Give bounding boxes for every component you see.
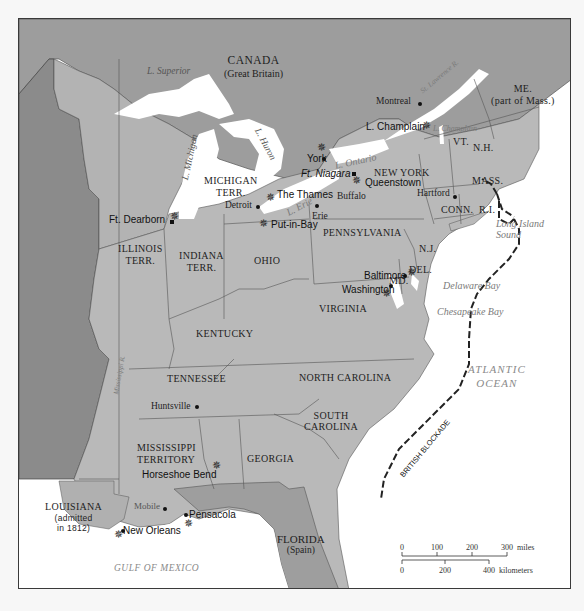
label-michigan-terr: MICHIGAN TERR. (204, 176, 258, 198)
label-delaware-bay: Delaware Bay (443, 281, 500, 291)
label-lake-superior: L. Superior (147, 67, 190, 77)
label-chesapeake-bay: Chesapeake Bay (437, 307, 503, 317)
battle-horseshoe-bend: Horseshoe Bend (142, 470, 217, 480)
map-frame: CANADA (Great Britain) FLORIDA (Spain) M… (18, 18, 571, 589)
label-georgia: GEORGIA (247, 454, 294, 464)
battle-baltimore: Baltimore (364, 271, 406, 281)
label-long-island-sound: Long Island Sound (496, 219, 544, 240)
scale-km-200: 200 (439, 566, 451, 575)
erie-marker (315, 204, 319, 208)
label-detroit: Detroit (225, 201, 252, 211)
label-canada: CANADA (Great Britain) (224, 55, 283, 79)
montreal-marker (418, 102, 422, 106)
battle-star-icon: ✵ (382, 288, 391, 299)
label-vermont: VT. (453, 137, 469, 147)
ft-dearborn-marker (170, 220, 174, 224)
battle-star-icon: ✵ (422, 120, 431, 131)
label-indiana-terr: INDIANA TERR. (179, 251, 224, 273)
scale-miles-100: 100 (431, 543, 443, 552)
mobile-marker (163, 507, 167, 511)
hartford-marker (453, 195, 457, 199)
scale-km-400: 400 (483, 566, 495, 575)
label-gulf-of-mexico: GULF OF MEXICO (114, 564, 199, 574)
battle-ft-dearborn: Ft. Dearborn (109, 215, 165, 225)
battle-star-icon: ✵ (114, 529, 123, 540)
label-kentucky: KENTUCKY (196, 329, 253, 339)
battle-put-in-bay: Put-in-Bay (271, 220, 318, 230)
label-south-carolina: SOUTH CAROLINA (304, 411, 358, 432)
battle-ft-niagara: Ft. Niagara (301, 169, 350, 179)
scale-miles-300: 300 (501, 543, 513, 552)
scale-miles-unit: miles (517, 543, 534, 552)
label-new-jersey: N.J. (419, 244, 436, 254)
label-louisiana: LOUISIANA (admitted in 1812) (45, 502, 102, 532)
huntsville-marker (195, 405, 199, 409)
label-ohio: OHIO (254, 256, 280, 266)
battle-new-orleans: New Orleans (123, 526, 181, 536)
scale-miles-200: 200 (466, 543, 478, 552)
label-buffalo: Buffalo (337, 192, 366, 202)
battle-star-icon: ✵ (266, 192, 275, 203)
label-illinois-terr: ILLINOIS TERR. (118, 244, 163, 266)
label-mississippi-territory: MISSISSIPPI TERRITORY (137, 443, 196, 465)
battle-pensacola: Pensacola (189, 510, 236, 520)
label-north-carolina: NORTH CAROLINA (299, 373, 391, 383)
label-atlantic-ocean: ATLANTIC OCEAN (468, 364, 526, 389)
label-massachusetts: MASS. (472, 176, 503, 186)
label-virginia: VIRGINIA (319, 304, 367, 314)
battle-star-icon: ✵ (317, 142, 326, 153)
battle-queenstown: Queenstown (365, 178, 421, 188)
battle-star-icon: ✵ (259, 218, 268, 229)
label-pennsylvania: PENNSYLVANIA (323, 228, 402, 238)
label-connecticut: CONN. (441, 205, 473, 215)
label-maine: ME. (part of Mass.) (491, 84, 555, 106)
york-marker (322, 157, 326, 161)
battle-star-icon: ✵ (212, 460, 221, 471)
battle-star-icon: ✵ (352, 175, 361, 186)
scale-bar (402, 552, 507, 564)
label-florida: FLORIDA (Spain) (277, 534, 325, 556)
battle-star-icon: ✵ (184, 518, 193, 529)
battle-star-icon: ✵ (407, 267, 416, 278)
label-montreal: Montreal (376, 97, 411, 107)
scale-km-unit: kilometers (499, 566, 533, 575)
label-rhode-island: R.I. (479, 205, 495, 215)
battle-l-champlain: L. Champlain (366, 122, 425, 132)
label-mobile: Mobile (134, 502, 160, 511)
label-tennessee: TENNESSEE (167, 374, 226, 384)
detroit-marker (256, 205, 260, 209)
label-new-hampshire: N.H. (473, 143, 494, 153)
scale-miles-0: 0 (400, 543, 404, 552)
label-hartford: Hartford (417, 189, 450, 199)
scale-km-0: 0 (400, 566, 404, 575)
label-lake-champlain: L. Champlain (433, 125, 477, 133)
label-huntsville: Huntsville (151, 402, 191, 412)
